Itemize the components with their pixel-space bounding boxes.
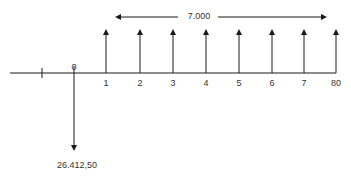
timeline-diagram: [0, 0, 351, 177]
period-label-5: 5: [236, 78, 241, 88]
period-label-6: 6: [269, 78, 274, 88]
period-label-3: 3: [170, 78, 175, 88]
outflow-amount-label: 26.412,50: [57, 160, 97, 170]
period-label-1: 1: [103, 78, 108, 88]
inflow-amount-label: 7.000: [188, 11, 211, 21]
period-label-0: 0: [71, 62, 76, 72]
period-label-7: 7: [301, 78, 306, 88]
period-label-4: 4: [203, 78, 208, 88]
period-label-2: 2: [137, 78, 142, 88]
period-label-80: 80: [331, 78, 341, 88]
